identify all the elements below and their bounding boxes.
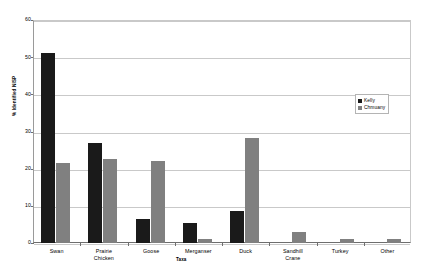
x-axis-tick-mark (80, 243, 81, 246)
bar-chmuany-other[interactable] (387, 239, 401, 243)
x-axis-label-goose: Goose (128, 245, 175, 275)
x-axis-tick-mark (222, 243, 223, 246)
bars-layer (33, 20, 411, 243)
x-axis-label-line: Sandhill (269, 248, 316, 255)
bar-chmuany-prairie-chicken[interactable] (103, 159, 117, 243)
bar-kelly-swan[interactable] (41, 53, 55, 243)
figure-container: 6050403020100 % Identified NISP SwanPrai… (0, 0, 424, 280)
bar-chmuany-merganser[interactable] (198, 239, 212, 243)
bar-chmuany-turkey[interactable] (340, 239, 354, 243)
bar-chmuany-sandhill-crane[interactable] (292, 232, 306, 243)
x-axis-label-line: Other (364, 248, 411, 255)
bar-chmuany-goose[interactable] (151, 161, 165, 243)
x-axis-tick-mark (175, 243, 176, 246)
bar-group (317, 20, 364, 243)
bar-group (364, 20, 411, 243)
x-axis-label-sandhill-crane: SandhillCrane (269, 245, 316, 275)
x-axis-label-line: Merganser (175, 248, 222, 255)
legend-label: Kelly (364, 98, 375, 103)
x-axis-title: Taxa (176, 257, 187, 262)
y-axis-title: % Identified NISP (12, 36, 17, 116)
bar-chmuany-duck[interactable] (245, 138, 259, 243)
legend-entry-chmuany[interactable]: Chmuany (358, 104, 385, 111)
x-axis-label-line: Swan (33, 248, 80, 255)
x-axis-tick-mark (128, 243, 129, 246)
x-axis-label-prairie-chicken: PrairieChicken (80, 245, 127, 275)
legend-swatch-icon (358, 99, 362, 103)
chart-legend: KellyChmuany (355, 94, 389, 114)
legend-label: Chmuany (364, 105, 385, 110)
bar-kelly-goose[interactable] (136, 219, 150, 243)
bar-group (128, 20, 175, 243)
x-axis-categories: SwanPrairieChickenGooseMerganserDuckSand… (33, 245, 411, 275)
x-axis-label-swan: Swan (33, 245, 80, 275)
x-axis-label-line: Turkey (317, 248, 364, 255)
y-axis-tick-label: 60 (5, 17, 31, 22)
bar-kelly-prairie-chicken[interactable] (88, 143, 102, 243)
x-axis-label-turkey: Turkey (317, 245, 364, 275)
bar-chmuany-swan[interactable] (56, 163, 70, 243)
x-axis-tick-mark (317, 243, 318, 246)
bar-group (33, 20, 80, 243)
x-axis-label-line: Crane (269, 255, 316, 262)
y-axis-tick-label: 0 (5, 240, 31, 245)
y-axis-tick-label: 50 (5, 55, 31, 60)
y-axis-tick-label: 30 (5, 129, 31, 134)
x-axis-label-line: Goose (128, 248, 175, 255)
y-axis-tick-label: 40 (5, 92, 31, 97)
x-axis-label-line: Prairie (80, 248, 127, 255)
bar-group (80, 20, 127, 243)
x-axis-tick-mark (364, 243, 365, 246)
y-axis-tick-label: 20 (5, 166, 31, 171)
x-axis-label-line: Duck (222, 248, 269, 255)
x-axis-label-line: Chicken (80, 255, 127, 262)
legend-entry-kelly[interactable]: Kelly (358, 97, 385, 104)
bar-group (175, 20, 222, 243)
bar-group (222, 20, 269, 243)
x-axis-label-other: Other (364, 245, 411, 275)
x-axis-label-duck: Duck (222, 245, 269, 275)
bar-kelly-duck[interactable] (230, 211, 244, 243)
bar-kelly-merganser[interactable] (183, 223, 197, 243)
y-axis-tick-label: 10 (5, 203, 31, 208)
x-axis-tick-mark (269, 243, 270, 246)
bar-group (269, 20, 316, 243)
legend-swatch-icon (358, 106, 362, 110)
